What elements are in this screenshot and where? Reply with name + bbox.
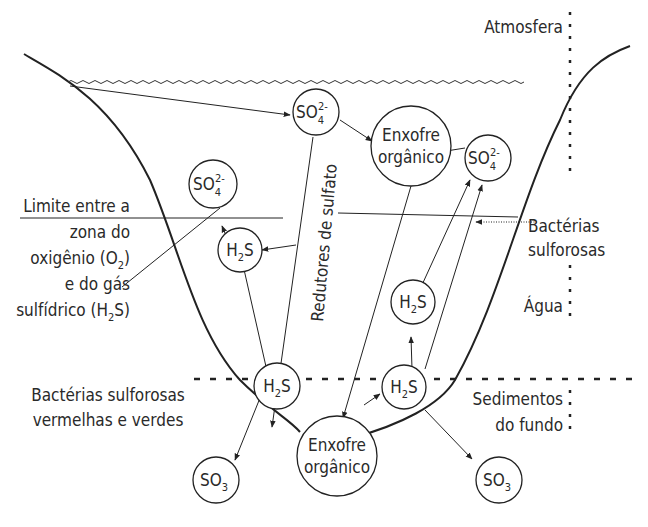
node-organic-sulfur-top [371,106,451,186]
zone-label-sediments-1: Sedimentos [473,389,563,409]
boundary-label-line1: Limite entre a [23,196,130,216]
zone-label-atmosphere: Atmosfera [484,17,563,37]
zone-label-water: Água [524,295,563,316]
red-green-bacteria-label-2: vermelhas e verdes [33,410,184,430]
organic-sulfur-top-line1: Enxofre [382,125,440,145]
organic-sulfur-bottom-line1: Enxofre [308,435,366,455]
node-h2s-upper-right [391,280,435,324]
sulfur-bacteria-label-2: sulforosas [528,240,605,260]
sulfate-reducers-label: Redutores de sulfato [307,163,341,322]
organic-sulfur-bottom-line2: orgânico [304,457,370,477]
node-h2s-lower-left [254,363,300,409]
node-h2s-upper-left [218,228,262,272]
node-h2s-lower-right [382,365,426,409]
sulfur-bacteria-label-1: Bactérias [528,216,600,236]
organic-sulfur-top-line2: orgânico [378,147,444,167]
red-green-bacteria-label-1: Bactérias sulforosas [31,385,185,405]
sulfur-cycle-diagram: SO42- SO42- SO42- Enxofre orgânico Enxof… [0,0,648,527]
water-surface [68,81,524,84]
boundary-label-line3: oxigênio (O2) [30,248,130,272]
boundary-label-line4: e do gás [65,274,130,294]
boundary-label-line2: zona do [70,222,130,242]
boundary-label-line5: sulfídrico (H2S) [16,300,130,324]
node-organic-sulfur-bottom [297,416,377,496]
boundary-line-right [338,213,518,217]
zone-label-sediments-2: do fundo [495,415,563,435]
